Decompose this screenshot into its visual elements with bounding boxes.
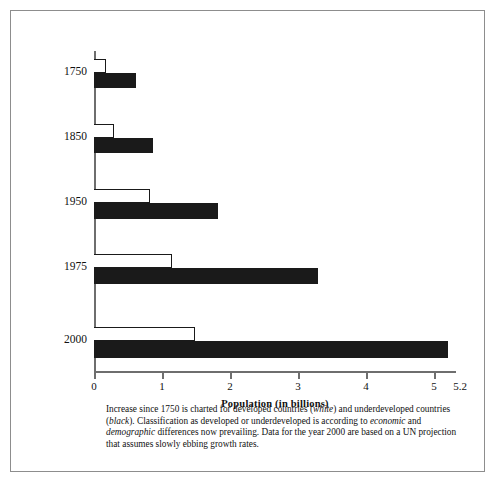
bar-black-1850 [94, 138, 153, 153]
x-tick-label-2: 2 [227, 380, 233, 393]
bar-white-1750 [94, 59, 106, 73]
bar-black-1750 [94, 73, 136, 88]
bar-white-1975 [94, 254, 172, 268]
bar-black-1950 [94, 203, 218, 219]
caption-line1-c: ). [129, 416, 134, 426]
x-tick-5 [434, 372, 436, 379]
caption-line2-b: and [406, 416, 422, 426]
x-tick-3 [298, 372, 300, 379]
caption-term-demographic: demographic [106, 427, 155, 437]
y-category-label-2000: 2000 [64, 333, 87, 346]
bar-black-1975 [94, 268, 318, 284]
x-axis-line [94, 371, 456, 373]
y-category-label-1750: 1750 [64, 65, 87, 78]
bar-white-1850 [94, 124, 114, 138]
x-tick-label-0: 0 [91, 380, 97, 393]
caption-term-economic: economic [370, 416, 406, 426]
figure-caption: Increase since 1750 is charted for devel… [106, 404, 461, 450]
y-category-label-1950: 1950 [64, 195, 87, 208]
caption-line1-a: Increase since 1750 is charted for devel… [106, 404, 313, 414]
bar-black-2000 [94, 341, 448, 358]
bar-white-2000 [94, 327, 195, 341]
x-tick-label-1: 1 [159, 380, 165, 393]
x-tick-label-5: 5 [431, 380, 437, 393]
x-tick-label-max: 5.2 [453, 380, 467, 393]
y-category-label-1975: 1975 [64, 260, 87, 273]
plot-area: 1750 1850 1950 1975 2000 0 1 2 3 4 5 5.2 [94, 41, 464, 371]
x-tick-label-3: 3 [295, 380, 301, 393]
figure-frame: World Population Increase 1750 1850 1950… [10, 10, 485, 472]
caption-line2-a: Classification as developed or underdeve… [137, 416, 370, 426]
bar-white-1950 [94, 189, 150, 203]
caption-term-black: black [109, 416, 129, 426]
caption-line4: growth rates. [210, 439, 259, 449]
y-axis-title-label: World Population Increase [40, 0, 51, 11]
x-tick-2 [230, 372, 232, 379]
y-category-label-1850: 1850 [64, 130, 87, 143]
caption-term-white: white [313, 404, 333, 414]
x-tick-0 [94, 372, 96, 379]
x-tick-4 [366, 372, 368, 379]
x-tick-label-4: 4 [363, 380, 369, 393]
x-tick-1 [162, 372, 164, 379]
y-axis-title: World Population Increase [35, 0, 51, 11]
caption-line2-c: differences [155, 427, 198, 437]
